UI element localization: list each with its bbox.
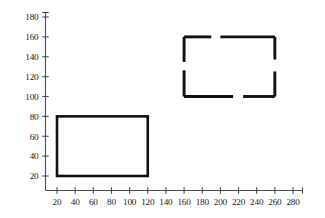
x-axis-tick-label: 140 (159, 197, 173, 207)
x-axis-tick-label: 280 (286, 197, 300, 207)
y-axis-tick-label: 120 (25, 72, 39, 82)
y-axis-tick-label: 80 (30, 112, 39, 122)
x-axis-tick-label: 100 (123, 197, 137, 207)
x-axis-tick-label: 220 (232, 197, 246, 207)
x-axis-tick-label: 200 (214, 197, 228, 207)
y-axis-tick-label: 160 (25, 32, 39, 42)
x-axis-tick-label: 20 (53, 197, 62, 207)
y-axis-tick-label: 140 (25, 52, 39, 62)
data-rectangle-solid (57, 116, 148, 176)
y-axis-tick-label: 40 (30, 151, 39, 161)
x-axis-tick-label: 60 (89, 197, 98, 207)
x-axis-tick-label: 40 (71, 197, 80, 207)
y-axis-tick-label: 60 (30, 132, 39, 142)
y-axis-tick-label: 20 (30, 171, 39, 181)
x-axis-tick-label: 260 (268, 197, 282, 207)
data-rectangle-dashed (184, 37, 275, 97)
x-axis-tick-label: 180 (196, 197, 210, 207)
y-axis-tick-label: 180 (25, 12, 39, 22)
x-axis-tick-label: 80 (107, 197, 116, 207)
plot-area: 2040608010012014016018020406080100120140… (0, 0, 325, 218)
y-axis-tick-label: 100 (25, 92, 39, 102)
x-axis-tick-label: 160 (177, 197, 191, 207)
x-axis-tick-label: 120 (141, 197, 155, 207)
x-axis-tick-label: 240 (250, 197, 264, 207)
chart-figure: 2040608010012014016018020406080100120140… (0, 0, 325, 218)
